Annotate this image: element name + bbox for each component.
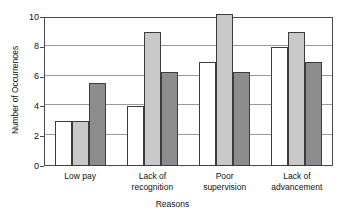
bar: [72, 121, 89, 166]
bar-chart: Number of Occurrences 0246810 Low payLac…: [0, 0, 345, 224]
bar: [199, 62, 216, 166]
y-axis-tick-label: 0: [15, 162, 39, 171]
bar-series-layer: [44, 17, 333, 166]
y-axis-tick-label: 8: [15, 42, 39, 51]
bar: [144, 32, 161, 166]
bar: [233, 72, 250, 166]
y-axis-tick-label: 2: [15, 132, 39, 141]
x-axis-category-label-line: Lack of: [252, 171, 342, 182]
bar: [288, 32, 305, 166]
x-axis-category-label-line: advancement: [252, 182, 342, 193]
bar: [89, 83, 106, 166]
y-axis-title-label: Number of Occurrences: [10, 46, 20, 134]
x-axis-title: Reasons: [0, 199, 345, 209]
bar: [161, 72, 178, 166]
x-axis-category-label: Lack ofadvancement: [252, 171, 342, 192]
bar: [305, 62, 322, 166]
bar: [127, 106, 144, 166]
y-axis-title: Number of Occurrences: [6, 16, 24, 164]
y-axis-tick-label: 10: [15, 13, 39, 22]
y-axis-tick: [40, 166, 44, 167]
y-axis-tick-label: 6: [15, 72, 39, 81]
y-axis-tick-label: 4: [15, 102, 39, 111]
bar: [55, 121, 72, 166]
bar: [271, 47, 288, 166]
bar: [216, 14, 233, 166]
